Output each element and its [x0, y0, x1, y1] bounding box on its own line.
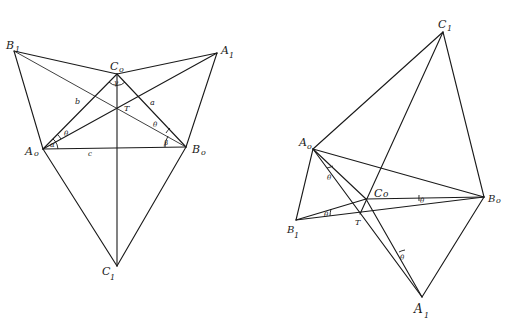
vertex-subscript: 1	[229, 51, 234, 60]
edge-c1-a0	[313, 32, 443, 149]
vertex-letter: A	[413, 302, 423, 316]
line-a0-a1	[43, 53, 217, 149]
label-b1: B 1	[5, 39, 20, 54]
angle-theta-left-arc	[57, 134, 61, 139]
label-t: T	[355, 218, 361, 227]
label-a1: A 1	[220, 44, 234, 60]
vertex-letter: B	[191, 143, 200, 156]
vertex-letter: C	[374, 187, 383, 200]
edge-a1-b0	[422, 197, 484, 297]
vertex-subscript: o	[307, 142, 312, 151]
edge-c1-b0	[443, 32, 484, 197]
vertex-letter: A	[298, 136, 307, 149]
label-b0: B o	[191, 143, 206, 157]
side-c	[43, 147, 186, 149]
angle-alpha-label: α	[50, 141, 55, 149]
vertex-subscript: o	[383, 189, 389, 199]
edge-a1-c0	[117, 53, 217, 74]
vertex-subscript: 1	[424, 311, 429, 320]
label-b1: B 1	[286, 224, 299, 240]
geometry-figure: α θ θ β γ b a c B 1 C o A 1 A o B o C	[0, 0, 524, 330]
vertex-subscript: o	[34, 149, 39, 158]
edge-a1-c0	[366, 199, 422, 297]
vertex-letter: C	[438, 18, 447, 31]
side-c-label: c	[88, 150, 92, 158]
line-c1-t	[360, 32, 443, 214]
vertex-subscript: 1	[447, 24, 452, 33]
label-a1: A 1	[413, 302, 429, 320]
side-b	[43, 74, 117, 149]
vertex-subscript: o	[119, 65, 124, 74]
line-a0-a1	[313, 149, 422, 297]
angle-theta-label: θ	[400, 254, 405, 262]
vertex-letter: B	[5, 39, 14, 52]
label-a0: A o	[24, 145, 39, 158]
vertex-letter: A	[24, 145, 33, 158]
edge-b1-c0	[14, 51, 117, 74]
angle-alpha-arc	[55, 141, 58, 149]
label-c0: C o	[110, 60, 124, 74]
edge-c1-b0	[117, 147, 186, 266]
vertex-subscript: 1	[110, 273, 115, 282]
angle-theta-label: θ	[327, 174, 332, 182]
left-diagram: α θ θ β γ b a c B 1 C o A 1 A o B o C	[5, 39, 234, 282]
vertex-subscript: 1	[294, 231, 299, 240]
angle-theta-label: θ	[64, 130, 69, 138]
vertex-subscript: o	[201, 148, 206, 157]
angle-theta-label: θ	[324, 211, 329, 219]
label-a0: A o	[298, 136, 312, 151]
vertex-letter: A	[220, 44, 229, 57]
angle-theta-label: θ	[153, 121, 158, 129]
vertex-letter: B	[487, 193, 495, 204]
vertex-subscript: o	[496, 196, 501, 205]
label-c0: C o	[374, 187, 389, 200]
edge-b1-a0	[14, 51, 43, 149]
label-c1: C 1	[102, 265, 115, 282]
side-b-label: b	[75, 97, 80, 106]
side-a-label: a	[150, 98, 155, 107]
vertex-subscript: 1	[15, 45, 20, 54]
edge-c1-a0	[43, 149, 117, 266]
right-diagram: θ θ θ θ C 1 A o C o B o B 1 A 1 T	[286, 18, 501, 320]
vertex-letter: C	[110, 60, 119, 73]
label-t: T	[124, 104, 130, 113]
angle-beta-label: β	[163, 139, 168, 147]
edge-b1-a0	[296, 149, 313, 220]
label-b0: B o	[487, 193, 501, 205]
angle-theta-a1-arc	[399, 250, 405, 252]
figure-canvas: α θ θ β γ b a c B 1 C o A 1 A o B o C	[0, 0, 524, 330]
label-c1: C 1	[438, 18, 452, 33]
